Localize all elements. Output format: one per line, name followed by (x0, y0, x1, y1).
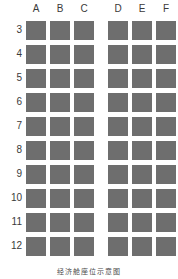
corner-spacer (0, 0, 26, 18)
seat-3F[interactable] (156, 21, 176, 40)
seat-3E[interactable] (132, 21, 152, 40)
row-label-4: 4 (0, 42, 26, 66)
seat-group-right (108, 165, 178, 184)
seat-5A[interactable] (26, 69, 46, 88)
seat-group-right (108, 117, 178, 136)
column-header-a: A (26, 0, 46, 18)
seat-9A[interactable] (26, 165, 46, 184)
seat-6A[interactable] (26, 93, 46, 112)
seat-9F[interactable] (156, 165, 176, 184)
seat-group-right (108, 213, 178, 232)
column-header-c: C (74, 0, 94, 18)
seat-11D[interactable] (108, 213, 128, 232)
seat-12C[interactable] (74, 237, 94, 256)
seat-4F[interactable] (156, 45, 176, 64)
seat-row: 11 (0, 210, 178, 234)
seat-10A[interactable] (26, 189, 46, 208)
seat-group-left (26, 165, 98, 184)
row-label-9: 9 (0, 162, 26, 186)
seat-6B[interactable] (50, 93, 70, 112)
seat-8B[interactable] (50, 141, 70, 160)
seat-7B[interactable] (50, 117, 70, 136)
seat-6F[interactable] (156, 93, 176, 112)
seat-row: 9 (0, 162, 178, 186)
seat-4A[interactable] (26, 45, 46, 64)
seat-7D[interactable] (108, 117, 128, 136)
seat-9D[interactable] (108, 165, 128, 184)
seat-group-right (108, 45, 178, 64)
seat-3A[interactable] (26, 21, 46, 40)
seat-12A[interactable] (26, 237, 46, 256)
seat-10B[interactable] (50, 189, 70, 208)
seat-9B[interactable] (50, 165, 70, 184)
seat-group-left (26, 69, 98, 88)
seat-6E[interactable] (132, 93, 152, 112)
row-label-3: 3 (0, 18, 26, 42)
seat-11A[interactable] (26, 213, 46, 232)
seat-7E[interactable] (132, 117, 152, 136)
seat-row: 8 (0, 138, 178, 162)
seat-6C[interactable] (74, 93, 94, 112)
seat-4B[interactable] (50, 45, 70, 64)
seat-8A[interactable] (26, 141, 46, 160)
seat-5C[interactable] (74, 69, 94, 88)
seat-group-right (108, 69, 178, 88)
seat-3B[interactable] (50, 21, 70, 40)
seat-12E[interactable] (132, 237, 152, 256)
chart-caption: 经济舱座位示意图 (0, 266, 178, 276)
seat-11C[interactable] (74, 213, 94, 232)
seat-10D[interactable] (108, 189, 128, 208)
seat-5E[interactable] (132, 69, 152, 88)
seat-8E[interactable] (132, 141, 152, 160)
seat-group-left (26, 93, 98, 112)
seat-9E[interactable] (132, 165, 152, 184)
row-label-7: 7 (0, 114, 26, 138)
column-header-d: D (108, 0, 128, 18)
seat-7C[interactable] (74, 117, 94, 136)
seat-group-left (26, 213, 98, 232)
seat-11E[interactable] (132, 213, 152, 232)
seat-row: 10 (0, 186, 178, 210)
row-label-10: 10 (0, 186, 26, 210)
seat-10C[interactable] (74, 189, 94, 208)
seat-10E[interactable] (132, 189, 152, 208)
column-header-row: A B C D E F (0, 0, 178, 18)
seat-11B[interactable] (50, 213, 70, 232)
seat-11F[interactable] (156, 213, 176, 232)
seat-row: 3 (0, 18, 178, 42)
seat-9C[interactable] (74, 165, 94, 184)
seat-row: 6 (0, 90, 178, 114)
seat-5B[interactable] (50, 69, 70, 88)
seat-10F[interactable] (156, 189, 176, 208)
seat-map: A B C D E F 3 4 (0, 0, 178, 279)
row-label-6: 6 (0, 90, 26, 114)
seat-group-right (108, 189, 178, 208)
seat-4D[interactable] (108, 45, 128, 64)
seat-7F[interactable] (156, 117, 176, 136)
seat-group-left (26, 21, 98, 40)
column-header-f: F (156, 0, 176, 18)
seat-12F[interactable] (156, 237, 176, 256)
seat-8D[interactable] (108, 141, 128, 160)
seat-group-left (26, 117, 98, 136)
seat-8F[interactable] (156, 141, 176, 160)
seat-4C[interactable] (74, 45, 94, 64)
seat-8C[interactable] (74, 141, 94, 160)
column-header-group-left: A B C (26, 0, 98, 18)
row-label-8: 8 (0, 138, 26, 162)
seat-row: 4 (0, 42, 178, 66)
seat-3D[interactable] (108, 21, 128, 40)
row-label-5: 5 (0, 66, 26, 90)
seat-row: 12 (0, 234, 178, 258)
row-label-12: 12 (0, 234, 26, 258)
seat-6D[interactable] (108, 93, 128, 112)
seat-12B[interactable] (50, 237, 70, 256)
seat-group-right (108, 21, 178, 40)
seat-5F[interactable] (156, 69, 176, 88)
seat-12D[interactable] (108, 237, 128, 256)
seat-3C[interactable] (74, 21, 94, 40)
column-header-b: B (50, 0, 70, 18)
seat-7A[interactable] (26, 117, 46, 136)
seat-4E[interactable] (132, 45, 152, 64)
seat-5D[interactable] (108, 69, 128, 88)
